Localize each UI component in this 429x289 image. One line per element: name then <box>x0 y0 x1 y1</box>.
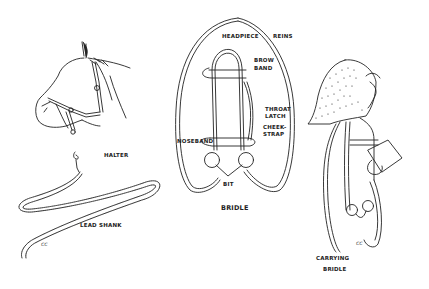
cheek-strap-label-line1: CHEEK- <box>263 124 286 131</box>
headpiece-label: HEADPIECE <box>222 33 259 40</box>
bit-label: BIT <box>223 181 234 188</box>
brow-band-label-line1: BROW <box>254 57 274 64</box>
throat-latch-label-line2: LATCH <box>265 113 286 120</box>
cheek-strap-label-line2: STRAP <box>263 131 284 138</box>
person-carrying-bridle-drawing <box>308 60 402 252</box>
carrying-bridle-label-line1: CARRYING <box>316 255 349 262</box>
throat-latch-label-line1: THROAT <box>265 106 291 113</box>
bridle-label: BRIDLE <box>221 205 249 212</box>
brow-band-label-line2: BAND <box>254 65 272 72</box>
carrying-bridle-label-line2: BRIDLE <box>323 266 347 273</box>
noseband-label: NOSEBAND <box>177 138 213 145</box>
lead-shank-signature: cc <box>41 240 48 247</box>
halter-label: HALTER <box>104 152 128 159</box>
carrying-bridle-signature: cc <box>356 239 363 246</box>
illustration-canvas <box>0 0 429 289</box>
lead-shank-label: LEAD SHANK <box>80 222 122 229</box>
reins-label: REINS <box>273 33 293 40</box>
horse-head-halter-drawing <box>36 42 130 134</box>
